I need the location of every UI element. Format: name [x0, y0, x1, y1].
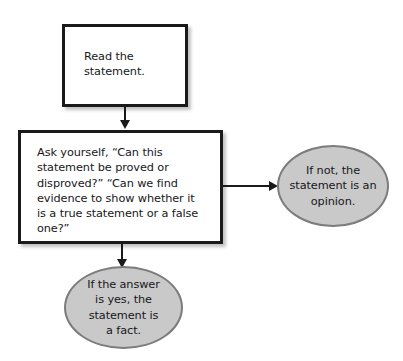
flowchart-canvas: Read the statement. Ask yourself, “Can t… — [0, 0, 403, 361]
node-opinion-result: If not, the statement is an opinion. — [277, 145, 389, 227]
node-ask-yourself: Ask yourself, “Can this statement be pro… — [18, 130, 223, 244]
node-fact-result-label: If the answer is yes, the statement is a… — [81, 277, 166, 338]
node-opinion-result-label: If not, the statement is an opinion. — [284, 163, 383, 209]
arrow-down-icon — [120, 120, 130, 129]
node-read-statement: Read the statement. — [62, 24, 188, 107]
node-read-statement-label: Read the statement. — [84, 49, 177, 80]
node-fact-result: If the answer is yes, the statement is a… — [64, 266, 183, 349]
connector-line — [223, 185, 275, 187]
node-ask-yourself-label: Ask yourself, “Can this statement be pro… — [37, 145, 212, 237]
